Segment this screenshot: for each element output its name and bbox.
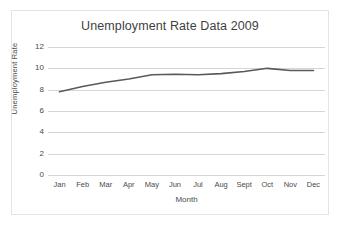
series-unemployment-rate-line	[60, 68, 314, 91]
y-tick-label: 8	[24, 86, 44, 94]
x-tick-label: Apr	[117, 180, 140, 189]
x-tick-label: May	[140, 180, 163, 189]
y-axis-tick-labels: 024681012	[20, 47, 44, 175]
x-axis-tick-labels: JanFebMarAprMayJunJulAugSeptOctNovDec	[48, 180, 325, 189]
x-tick-label: Oct	[256, 180, 279, 189]
y-tick-label: 0	[24, 171, 44, 179]
plot-area	[48, 47, 325, 175]
y-tick-label: 4	[24, 128, 44, 136]
x-tick-label: Jan	[48, 180, 71, 189]
chart-title: Unemployment Rate Data 2009	[11, 19, 329, 33]
x-tick-label: Jun	[163, 180, 186, 189]
y-axis-title: Unemployment Rate	[10, 31, 19, 127]
y-tick-label: 6	[24, 107, 44, 115]
x-tick-label: Feb	[71, 180, 94, 189]
x-tick-label: Nov	[279, 180, 302, 189]
gridline-0	[48, 175, 325, 176]
x-tick-label: Aug	[210, 180, 233, 189]
x-tick-label: Dec	[302, 180, 325, 189]
x-axis-title: Month	[48, 195, 325, 204]
x-tick-label: Jul	[186, 180, 209, 189]
x-tick-label: Sept	[233, 180, 256, 189]
chart-figure: Unemployment Rate Data 2009 Unemployment…	[0, 0, 342, 231]
y-tick-label: 12	[24, 43, 44, 51]
series-line-chart	[48, 47, 325, 175]
y-tick-label: 10	[24, 64, 44, 72]
x-tick-label: Mar	[94, 180, 117, 189]
y-tick-label: 2	[24, 150, 44, 158]
